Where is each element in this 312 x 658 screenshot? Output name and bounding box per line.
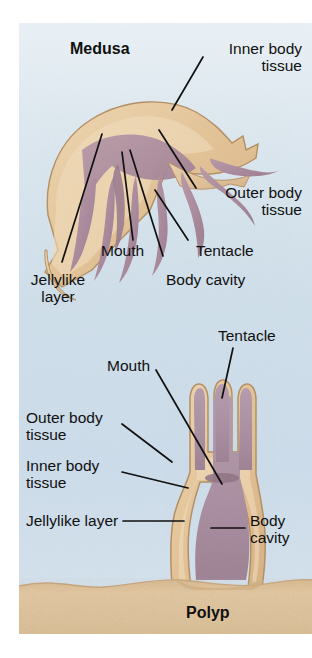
polyp-texture xyxy=(165,375,275,590)
medusa-title: Medusa xyxy=(70,41,130,58)
polyp-label-outer-body-tissue: Outer body tissue xyxy=(26,410,146,443)
polyp-label-jellylike-layer: Jellylike layer xyxy=(26,513,166,530)
illustration-canvas: Medusa Inner body tissue Outer body tiss… xyxy=(0,0,312,658)
polyp-label-inner-body-tissue: Inner body tissue xyxy=(26,458,146,491)
polyp-label-tentacle: Tentacle xyxy=(218,328,308,345)
medusa-label-jellylike-layer: Jellylike layer xyxy=(16,272,100,305)
polyp-title: Polyp xyxy=(186,605,230,622)
medusa-label-inner-body-tissue: Inner body tissue xyxy=(180,41,302,74)
polyp-organism xyxy=(165,375,275,590)
seafloor xyxy=(19,578,312,634)
medusa-label-outer-body-tissue: Outer body tissue xyxy=(180,185,302,218)
medusa-label-tentacle: Tentacle xyxy=(196,243,306,260)
sand-grain xyxy=(19,578,312,634)
medusa-label-mouth: Mouth xyxy=(101,243,181,260)
polyp-label-mouth: Mouth xyxy=(107,358,187,375)
polyp-label-body-cavity: Body cavity xyxy=(250,513,312,546)
medusa-label-body-cavity: Body cavity xyxy=(166,272,296,289)
